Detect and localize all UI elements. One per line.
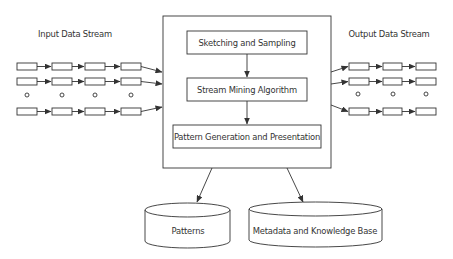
output-stream-ellipsis	[356, 92, 428, 96]
output-stream-title: Output Data Stream	[348, 29, 429, 39]
input-stream-ellipsis	[25, 93, 133, 97]
metadata-store-cylinder	[249, 202, 382, 247]
output-stream-row-3	[331, 105, 436, 115]
step-label-pattern: Pattern Generation and Presentation	[174, 132, 320, 142]
input-stream-row-3	[17, 107, 162, 115]
arrow-to-metadata	[287, 168, 303, 202]
step-label-mining: Stream Mining Algorithm	[197, 85, 297, 95]
input-stream-row-1	[17, 63, 162, 72]
output-stream-row-1	[331, 63, 436, 72]
output-stream-row-2	[331, 78, 436, 85]
input-stream-title: Input Data Stream	[38, 29, 112, 39]
store-label-metadata: Metadata and Knowledge Base	[253, 226, 377, 236]
step-label-sketching: Sketching and Sampling	[198, 38, 295, 48]
arrow-to-patterns	[197, 168, 212, 202]
store-label-patterns: Patterns	[172, 226, 205, 236]
input-stream-row-2	[17, 78, 162, 85]
